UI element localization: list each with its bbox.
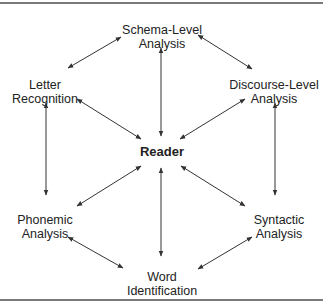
node-label-line: Analysis	[254, 227, 305, 241]
arrow-phonemic-word	[68, 237, 123, 268]
arrow-reader-syntactic	[181, 166, 245, 206]
node-label-line: Phonemic	[17, 213, 73, 227]
node-label-line: Syntactic	[254, 213, 305, 227]
node-label-line: Schema-Level	[122, 23, 202, 37]
arrow-schema-discourse	[198, 35, 252, 69]
node-label-line: Letter	[12, 78, 78, 92]
node-letter-recognition: Letter Recognition	[12, 78, 78, 106]
node-label-line: Reader	[140, 145, 184, 159]
node-syntactic-analysis: Syntactic Analysis	[254, 213, 305, 241]
node-label-line: Analysis	[17, 227, 73, 241]
arrow-syntactic-word	[198, 237, 252, 269]
node-phonemic-analysis: Phonemic Analysis	[17, 213, 73, 241]
node-label-line: Word	[127, 270, 197, 284]
node-label-line: Analysis	[122, 37, 202, 51]
node-discourse-level-analysis: Discourse-Level Analysis	[229, 78, 319, 106]
arrow-schema-letter	[68, 37, 121, 68]
node-label-line: Identification	[127, 284, 197, 298]
arrow-reader-phonemic	[77, 166, 141, 206]
node-label-line: Discourse-Level	[229, 78, 319, 92]
node-schema-level-analysis: Schema-Level Analysis	[122, 23, 202, 51]
node-label-line: Recognition	[12, 92, 78, 106]
node-label-line: Analysis	[229, 92, 319, 106]
node-reader: Reader	[140, 145, 184, 159]
node-word-identification: Word Identification	[127, 270, 197, 298]
arrow-letter-reader	[77, 99, 141, 139]
